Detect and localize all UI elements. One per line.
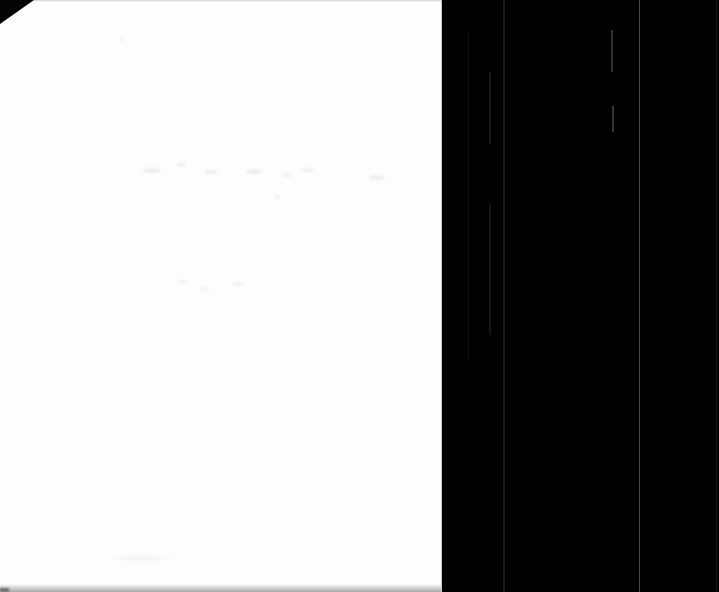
showthrough-smudge [178,280,188,284]
showthrough-smudge [232,282,243,286]
page-edge-reflection-streak [489,205,491,335]
showthrough-smudge [282,173,292,177]
showthrough-smudge [204,170,218,174]
showthrough-smudge [300,168,314,172]
page-edge-reflection-streak [611,30,613,72]
showthrough-smudge [120,38,124,41]
showthrough-smudge [115,557,170,560]
showthrough-smudge [143,168,161,173]
page-edge-reflection-streak [716,0,717,592]
page-edge-reflection-streak [489,72,491,144]
page-edge-reflection-streak [468,30,469,360]
showthrough-smudge [246,169,262,174]
page-top-edge-shadow [0,0,441,2]
scanner-black-background [442,0,719,592]
showthrough-smudge [369,175,385,180]
page-bottom-shadow [0,584,441,592]
showthrough-smudge [200,287,209,291]
page-edge-reflection-streak [503,0,505,592]
page-edge-reflection-streak [612,106,614,132]
blank-scanned-page [0,0,442,592]
showthrough-smudge [176,163,186,167]
page-edge-reflection-streak [639,0,640,592]
showthrough-smudge [275,195,280,199]
book-scan-photo [0,0,719,592]
folded-corner-shadow [0,0,34,24]
bottom-left-corner-shadow [0,588,9,592]
